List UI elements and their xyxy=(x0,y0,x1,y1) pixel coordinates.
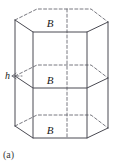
top-hexagon-front-edges xyxy=(15,20,108,32)
height-measure-group xyxy=(12,73,22,79)
mid-hexagon-front-edges xyxy=(15,76,108,88)
hexagonal-prism-drawing: B B B h (a) xyxy=(0,0,120,164)
label-area-middle: B xyxy=(47,74,54,86)
bottom-hexagon-back-edges xyxy=(15,115,108,128)
figure-hexagonal-prism: B B B h (a) xyxy=(0,0,120,164)
figure-caption: (a) xyxy=(3,149,14,161)
visible-edges-group xyxy=(15,20,108,138)
label-height: h xyxy=(5,70,10,81)
mid-hexagon-back-edges xyxy=(15,65,108,78)
bottom-hexagon-front-edges xyxy=(15,126,108,138)
label-area-top: B xyxy=(47,17,54,29)
top-hexagon-back-edges xyxy=(15,9,108,22)
label-area-bottom: B xyxy=(47,124,54,136)
